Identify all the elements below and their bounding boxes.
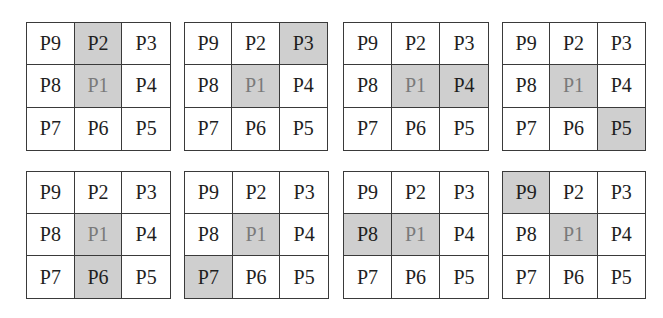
cell-p5: P5 [598, 256, 645, 298]
cell-p9: P9 [185, 23, 232, 65]
neighborhood-grid-4: P9 P2 P3 P8 P1 P4 P7 P6 P5 [502, 22, 646, 151]
cell-p1: P1 [232, 65, 279, 107]
cell-p3: P3 [440, 172, 488, 214]
cell-p2: P2 [392, 23, 440, 65]
cell-p6: P6 [392, 256, 440, 298]
cell-p9: P9 [344, 23, 392, 65]
cell-p5: P5 [280, 256, 328, 298]
cell-p9: P9 [27, 23, 75, 65]
neighborhood-grid-3: P9 P2 P3 P8 P1 P4 P7 P6 P5 [343, 22, 489, 151]
cell-p9: P9 [27, 172, 75, 214]
cell-p6: P6 [75, 108, 123, 150]
cell-p7: P7 [185, 108, 232, 150]
cell-p4: P4 [122, 65, 170, 107]
cell-p5: P5 [122, 108, 170, 150]
cell-p1: P1 [75, 214, 123, 256]
cell-p1: P1 [392, 214, 440, 256]
cell-p8: P8 [27, 65, 75, 107]
cell-p7: P7 [503, 256, 550, 298]
cell-p6: P6 [550, 108, 597, 150]
cell-p2: P2 [550, 23, 597, 65]
cell-p6: P6 [233, 256, 281, 298]
cell-p8: P8 [27, 214, 75, 256]
cell-p5: P5 [122, 256, 170, 298]
neighborhood-grid-7: P9 P2 P3 P8 P1 P4 P7 P6 P5 [343, 171, 489, 299]
cell-p8: P8 [344, 65, 392, 107]
cell-p1: P1 [75, 65, 123, 107]
neighborhood-grid-5: P9 P2 P3 P8 P1 P4 P7 P6 P5 [26, 171, 171, 299]
cell-p8: P8 [185, 214, 233, 256]
cell-p7: P7 [503, 108, 550, 150]
cell-p3: P3 [440, 23, 488, 65]
cell-p2: P2 [550, 172, 597, 214]
cell-p5: P5 [440, 108, 488, 150]
cell-p6: P6 [550, 256, 597, 298]
cell-p1: P1 [233, 214, 281, 256]
cell-p5: P5 [280, 108, 327, 150]
cell-p9: P9 [503, 172, 550, 214]
cell-p8: P8 [344, 214, 392, 256]
cell-p1: P1 [550, 65, 597, 107]
cell-p2: P2 [233, 172, 281, 214]
cell-p9: P9 [344, 172, 392, 214]
cell-p7: P7 [344, 256, 392, 298]
cell-p6: P6 [75, 256, 123, 298]
cell-p2: P2 [75, 23, 123, 65]
cell-p3: P3 [122, 23, 170, 65]
cell-p2: P2 [75, 172, 123, 214]
cell-p2: P2 [232, 23, 279, 65]
cell-p4: P4 [598, 214, 645, 256]
cell-p4: P4 [598, 65, 645, 107]
cell-p6: P6 [232, 108, 279, 150]
cell-p3: P3 [598, 172, 645, 214]
cell-p5: P5 [440, 256, 488, 298]
cell-p4: P4 [280, 65, 327, 107]
cell-p6: P6 [392, 108, 440, 150]
cell-p3: P3 [280, 23, 327, 65]
neighborhood-grid-8: P9 P2 P3 P8 P1 P4 P7 P6 P5 [502, 171, 646, 299]
cell-p4: P4 [440, 65, 488, 107]
cell-p9: P9 [503, 23, 550, 65]
cell-p8: P8 [503, 214, 550, 256]
cell-p5: P5 [598, 108, 645, 150]
cell-p2: P2 [392, 172, 440, 214]
cell-p4: P4 [280, 214, 328, 256]
cell-p3: P3 [280, 172, 328, 214]
cell-p3: P3 [122, 172, 170, 214]
neighborhood-grid-6: P9 P2 P3 P8 P1 P4 P7 P6 P5 [184, 171, 329, 299]
cell-p4: P4 [122, 214, 170, 256]
cell-p9: P9 [185, 172, 233, 214]
cell-p8: P8 [503, 65, 550, 107]
cell-p7: P7 [27, 108, 75, 150]
cell-p1: P1 [550, 214, 597, 256]
neighborhood-grid-1: P9 P2 P3 P8 P1 P4 P7 P6 P5 [26, 22, 171, 151]
cell-p7: P7 [27, 256, 75, 298]
cell-p3: P3 [598, 23, 645, 65]
cell-p7: P7 [185, 256, 233, 298]
cell-p1: P1 [392, 65, 440, 107]
neighborhood-grid-2: P9 P2 P3 P8 P1 P4 P7 P6 P5 [184, 22, 328, 151]
cell-p7: P7 [344, 108, 392, 150]
cell-p8: P8 [185, 65, 232, 107]
cell-p4: P4 [440, 214, 488, 256]
